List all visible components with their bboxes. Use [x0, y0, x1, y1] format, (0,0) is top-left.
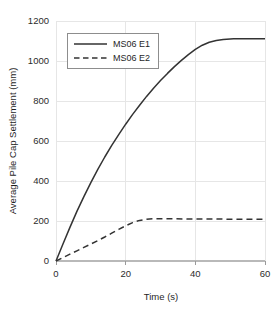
y-tick-label: 400 [33, 175, 49, 186]
chart-container: 020040060080010001200 0204060 MS06 E1MS0… [0, 0, 278, 313]
chart-legend: MS06 E1MS06 E2 [67, 33, 158, 68]
x-tick-label: 20 [120, 268, 131, 279]
y-tick-label: 200 [33, 215, 49, 226]
y-tick-label: 1000 [28, 55, 49, 66]
x-tick-label: 0 [53, 268, 58, 279]
line-chart: 020040060080010001200 0204060 MS06 E1MS0… [0, 0, 278, 313]
legend-label: MS06 E1 [113, 39, 150, 49]
legend-label: MS06 E2 [113, 53, 150, 63]
x-tick-label: 40 [190, 268, 201, 279]
y-tick-label: 0 [44, 255, 49, 266]
y-tick-label: 800 [33, 95, 49, 106]
data-series [56, 39, 265, 261]
y-axis-tick-labels: 020040060080010001200 [28, 15, 49, 266]
y-tick-label: 600 [33, 135, 49, 146]
x-tick-label: 60 [260, 268, 271, 279]
series-line-ms06-e2 [56, 219, 265, 261]
tick-marks [56, 261, 265, 265]
x-axis-tick-labels: 0204060 [53, 268, 270, 279]
x-axis-title: Time (s) [144, 291, 178, 302]
y-tick-label: 1200 [28, 15, 49, 26]
series-line-ms06-e1 [56, 39, 265, 261]
y-axis-title: Average Pile Cap Settlement (mm) [7, 68, 18, 215]
